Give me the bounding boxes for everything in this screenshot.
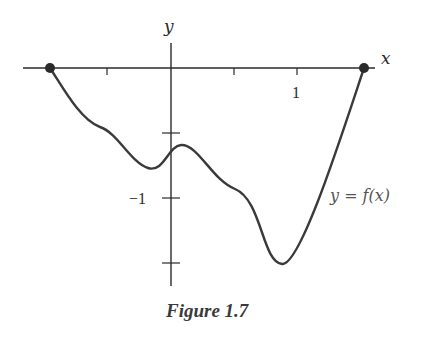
x-tick-label-1: 1 [292,84,300,101]
function-curve [50,68,364,264]
function-label: y = f(x) [329,186,390,205]
x-axis-label: x [381,48,391,68]
figure-caption: Figure 1.7 [165,300,250,321]
right-endpoint-dot [359,63,369,73]
y-tick-label-neg1: −1 [129,190,146,207]
y-axis-label: y [163,16,174,36]
figure-1-7: y x 1 −1 y = f(x) Figure 1.7 [0,0,426,337]
left-endpoint-dot [45,63,55,73]
